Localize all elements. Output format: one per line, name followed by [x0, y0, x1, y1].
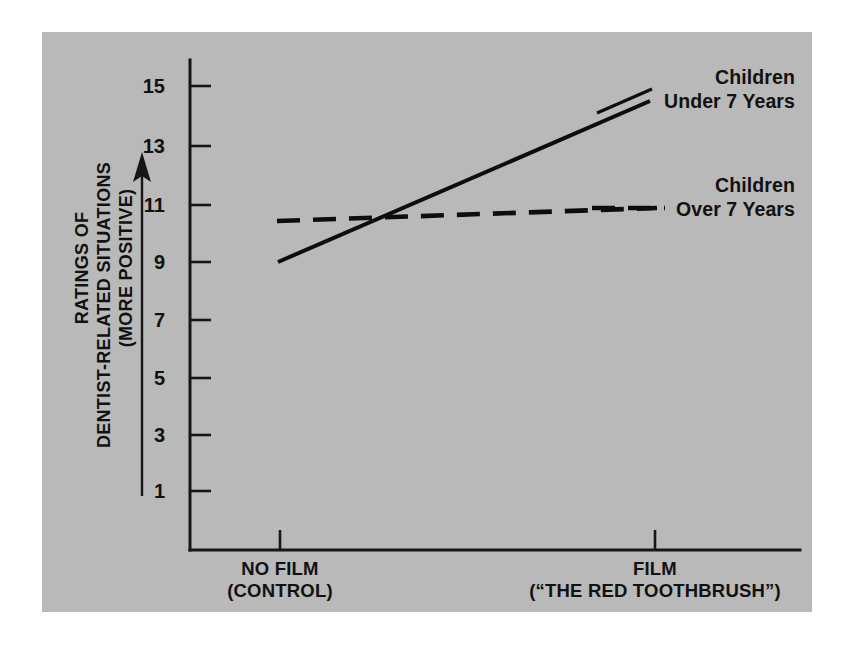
y-tick-label-15: 15: [125, 75, 165, 98]
y-axis-title-line3: (MORE POSITIVE): [116, 118, 137, 418]
figure-container: 15 13 11 9 7 5 3 1 RATINGS OF DENTIST-RE…: [0, 0, 841, 647]
y-axis-title-line1: RATINGS OF: [72, 118, 93, 418]
x-tick-label-no-film-line1: NO FILM: [180, 558, 380, 579]
x-tick-label-no-film-line2: (CONTROL): [180, 580, 380, 601]
series-label-over-7-line1: Children: [575, 174, 795, 197]
y-axis-title-line2: DENTIST-RELATED SITUATIONS: [94, 140, 115, 470]
y-tick-label-3: 3: [125, 424, 165, 447]
y-tick-label-1: 1: [125, 480, 165, 503]
series-label-under-7-line1: Children: [575, 66, 795, 89]
x-tick-label-film-line2: (“THE RED TOOTHBRUSH”): [505, 580, 805, 601]
series-label-over-7-line2: Over 7 Years: [575, 198, 795, 221]
x-tick-label-film-line1: FILM: [505, 558, 805, 579]
series-label-under-7-line2: Under 7 Years: [575, 90, 795, 113]
